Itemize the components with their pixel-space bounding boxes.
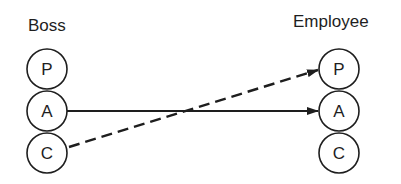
boss-p-label: P <box>41 60 52 79</box>
diagram-canvas: P A C P A C <box>0 0 401 184</box>
employee-c-label: C <box>333 144 345 163</box>
boss-c-label: C <box>41 144 53 163</box>
boss-a-label: A <box>41 102 53 121</box>
employee-a-label: A <box>333 102 345 121</box>
employee-p-label: P <box>333 60 344 79</box>
dashed-arrow-c-to-p <box>69 70 318 147</box>
